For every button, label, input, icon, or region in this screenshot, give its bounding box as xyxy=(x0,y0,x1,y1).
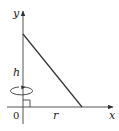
radius-label: r xyxy=(53,109,59,122)
cone-diagram: y x 0 h r xyxy=(0,0,119,131)
x-axis-label: x xyxy=(109,109,116,122)
right-angle-marker xyxy=(23,100,30,107)
triangle-hypotenuse xyxy=(23,34,82,107)
y-axis-label: y xyxy=(12,7,20,20)
origin-label: 0 xyxy=(13,110,19,121)
height-label: h xyxy=(13,66,20,79)
rotation-arrow-icon xyxy=(11,86,33,95)
